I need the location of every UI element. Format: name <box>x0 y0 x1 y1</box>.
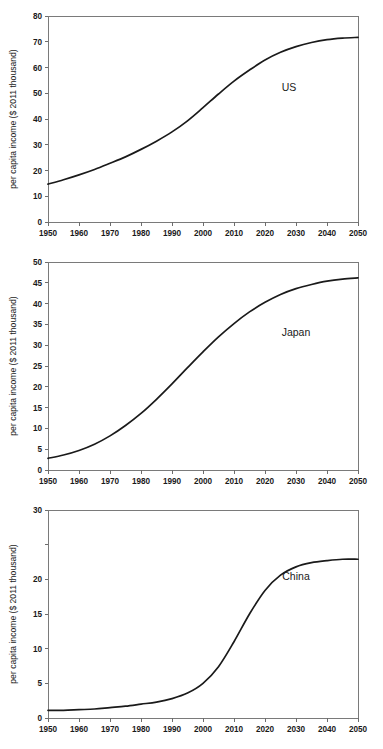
y-tick-label: 30 <box>33 341 43 350</box>
series-annotation-us: US <box>282 81 297 93</box>
x-tick-label: 1950 <box>39 477 58 486</box>
y-tick-label: 25 <box>33 362 43 371</box>
x-tick-label: 1990 <box>163 229 182 238</box>
x-tick-label: 2000 <box>194 725 213 734</box>
y-tick-label: 30 <box>33 141 43 150</box>
x-tick-label: 1950 <box>39 725 58 734</box>
x-tick-label: 2010 <box>225 229 244 238</box>
y-tick-label: 5 <box>37 679 42 688</box>
x-tick-label: 2000 <box>194 477 213 486</box>
x-tick-label: 2040 <box>318 229 337 238</box>
x-tick-label: 2010 <box>225 477 244 486</box>
y-tick-label: 15 <box>33 610 43 619</box>
y-tick-label: 20 <box>33 575 43 584</box>
x-tick-label: 2020 <box>256 725 275 734</box>
y-tick-label: 0 <box>37 218 42 227</box>
plot-frame <box>48 510 358 718</box>
plot-frame <box>48 262 358 470</box>
y-tick-label: 70 <box>33 38 43 47</box>
x-tick-label: 1960 <box>70 477 89 486</box>
x-tick-label: 2030 <box>287 725 306 734</box>
x-tick-label: 1980 <box>132 229 151 238</box>
x-tick-label: 1960 <box>70 725 89 734</box>
y-tick-label: 50 <box>33 89 43 98</box>
series-annotation-japan: Japan <box>282 326 311 338</box>
y-tick-label: 15 <box>33 404 43 413</box>
y-tick-label: 45 <box>33 279 43 288</box>
data-curve-china <box>48 559 358 710</box>
y-tick-label: 35 <box>33 320 43 329</box>
y-tick-label: 10 <box>33 192 43 201</box>
x-tick-label: 1970 <box>101 477 120 486</box>
chart-panel-china: 0510152030195019601970198019902000201020… <box>0 500 383 749</box>
x-tick-label: 1970 <box>101 229 120 238</box>
y-tick-label: 40 <box>33 115 43 124</box>
x-tick-label: 1990 <box>163 725 182 734</box>
y-tick-label: 0 <box>37 714 42 723</box>
chart-svg-china: 0510152030195019601970198019902000201020… <box>0 500 383 749</box>
x-tick-label: 2050 <box>349 725 368 734</box>
y-axis: 0510152030 <box>33 506 48 723</box>
y-axis-title: per capita income ($ 2011 thousand) <box>8 296 18 435</box>
chart-svg-japan: 0510152025303540455019501960197019801990… <box>0 252 383 500</box>
chart-panel-japan: 0510152025303540455019501960197019801990… <box>0 252 383 500</box>
data-curve-japan <box>48 278 358 459</box>
y-tick-label: 30 <box>33 506 43 515</box>
x-tick-label: 2030 <box>287 477 306 486</box>
x-tick-label: 2050 <box>349 477 368 486</box>
y-tick-label: 0 <box>37 466 42 475</box>
x-tick-label: 2010 <box>225 725 244 734</box>
y-axis-title: per capita income ($ 2011 thousand) <box>8 49 18 188</box>
y-tick-label: 60 <box>33 64 43 73</box>
chart-panel-us: 0102030405060708019501960197019801990200… <box>0 0 383 252</box>
y-tick-label: 40 <box>33 300 43 309</box>
plot-frame <box>48 16 358 222</box>
series-annotation-china: China <box>282 570 310 582</box>
x-tick-label: 2040 <box>318 725 337 734</box>
x-axis: 1950196019701980199020002010202020302040… <box>39 470 368 486</box>
y-axis: 05101520253035404550 <box>33 258 48 475</box>
data-curve-us <box>48 37 358 184</box>
x-axis: 1950196019701980199020002010202020302040… <box>39 222 368 238</box>
y-tick-label: 50 <box>33 258 43 267</box>
y-tick-label: 20 <box>33 383 43 392</box>
x-axis: 1950196019701980199020002010202020302040… <box>39 718 368 734</box>
y-tick-label: 5 <box>37 445 42 454</box>
x-tick-label: 2020 <box>256 477 275 486</box>
x-tick-label: 1950 <box>39 229 58 238</box>
x-tick-label: 2050 <box>349 229 368 238</box>
x-tick-label: 1970 <box>101 725 120 734</box>
x-tick-label: 1980 <box>132 725 151 734</box>
x-tick-label: 2030 <box>287 229 306 238</box>
y-tick-label: 20 <box>33 167 43 176</box>
y-tick-label: 10 <box>33 424 43 433</box>
x-tick-label: 2040 <box>318 477 337 486</box>
y-axis-title: per capita income ($ 2011 thousand) <box>8 544 18 683</box>
y-axis: 01020304050607080 <box>33 12 48 227</box>
x-tick-label: 2000 <box>194 229 213 238</box>
x-tick-label: 1990 <box>163 477 182 486</box>
figure-three-panel-line-charts: 0102030405060708019501960197019801990200… <box>0 0 383 749</box>
x-tick-label: 1980 <box>132 477 151 486</box>
y-tick-label: 80 <box>33 12 43 21</box>
x-tick-label: 2020 <box>256 229 275 238</box>
x-tick-label: 1960 <box>70 229 89 238</box>
y-tick-label: 10 <box>33 645 43 654</box>
chart-svg-us: 0102030405060708019501960197019801990200… <box>0 0 383 252</box>
